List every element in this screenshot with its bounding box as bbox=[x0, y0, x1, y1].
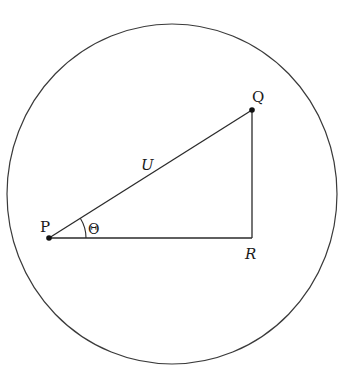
label-p: P bbox=[40, 218, 50, 236]
diagram-canvas: P Q R U Θ bbox=[0, 0, 344, 368]
angle-arc-theta bbox=[80, 218, 86, 238]
label-theta: Θ bbox=[88, 221, 99, 237]
point-p-dot bbox=[46, 235, 52, 241]
label-q: Q bbox=[252, 88, 264, 106]
triangle-diagram: P Q R U Θ bbox=[0, 0, 344, 368]
label-r: R bbox=[244, 245, 256, 263]
circumscribing-circle bbox=[7, 24, 337, 364]
label-u-hypotenuse: U bbox=[141, 156, 155, 174]
point-q-dot bbox=[249, 107, 255, 113]
edge-pq-hypotenuse bbox=[49, 110, 252, 238]
